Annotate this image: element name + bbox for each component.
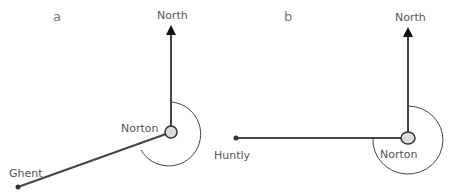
north-arrow-icon [403, 27, 413, 37]
target-point [234, 136, 239, 141]
target-point [16, 185, 21, 190]
north-label: North [157, 9, 188, 22]
panel-b: b North Norton Huntly [214, 9, 443, 174]
center-node [165, 126, 177, 138]
center-label: Norton [121, 122, 159, 135]
panel-label: a [53, 9, 61, 24]
target-label: Huntly [214, 149, 251, 162]
panel-label: b [284, 9, 292, 24]
target-label: Ghent [9, 167, 43, 180]
center-label: Norton [380, 148, 418, 161]
center-node [401, 132, 415, 144]
bearing-diagram: a North Norton Ghent b North Norton Hunt… [0, 0, 449, 195]
north-label: North [395, 11, 426, 24]
panel-a: a North Norton Ghent [9, 9, 201, 190]
north-arrow-icon [166, 25, 176, 35]
